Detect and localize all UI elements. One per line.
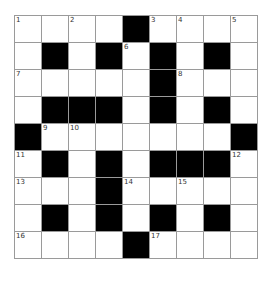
crossword-cell[interactable] <box>69 178 96 205</box>
black-square <box>96 151 123 178</box>
crossword-cell[interactable]: 16 <box>15 232 42 259</box>
black-square <box>15 124 42 151</box>
crossword-cell[interactable]: 6 <box>123 43 150 70</box>
clue-number: 12 <box>232 151 241 159</box>
crossword-cell[interactable] <box>96 232 123 259</box>
clue-number: 3 <box>151 16 155 24</box>
black-square <box>204 205 231 232</box>
crossword-cell[interactable] <box>231 97 258 124</box>
clue-number: 13 <box>16 178 25 186</box>
crossword-cell[interactable] <box>123 70 150 97</box>
black-square <box>96 178 123 205</box>
black-square <box>204 151 231 178</box>
crossword-cell[interactable]: 2 <box>69 16 96 43</box>
crossword-cell[interactable]: 15 <box>177 178 204 205</box>
black-square <box>96 205 123 232</box>
clue-number: 5 <box>232 16 236 24</box>
clue-number: 15 <box>178 178 187 186</box>
crossword-cell[interactable]: 9 <box>42 124 69 151</box>
crossword-cell[interactable] <box>150 124 177 151</box>
crossword-cell[interactable] <box>204 178 231 205</box>
crossword-cell[interactable] <box>177 43 204 70</box>
black-square <box>204 43 231 70</box>
black-square <box>150 97 177 124</box>
crossword-grid: 1234567891011121314151617 <box>14 15 258 259</box>
crossword-cell[interactable]: 8 <box>177 70 204 97</box>
crossword-cell[interactable]: 13 <box>15 178 42 205</box>
crossword-cell[interactable] <box>177 97 204 124</box>
crossword-cell[interactable] <box>96 124 123 151</box>
clue-number: 10 <box>70 124 79 132</box>
clue-number: 14 <box>124 178 133 186</box>
crossword-cell[interactable] <box>204 232 231 259</box>
black-square <box>42 43 69 70</box>
crossword-cell[interactable] <box>231 232 258 259</box>
crossword-cell[interactable] <box>177 124 204 151</box>
crossword-cell[interactable] <box>69 205 96 232</box>
crossword-cell[interactable] <box>69 232 96 259</box>
black-square <box>204 97 231 124</box>
crossword-cell[interactable]: 5 <box>231 16 258 43</box>
crossword-cell[interactable] <box>204 16 231 43</box>
crossword-cell[interactable]: 12 <box>231 151 258 178</box>
crossword-cell[interactable] <box>177 205 204 232</box>
crossword-cell[interactable] <box>204 124 231 151</box>
crossword-cell[interactable]: 11 <box>15 151 42 178</box>
crossword-cell[interactable] <box>123 205 150 232</box>
crossword-cell[interactable] <box>42 70 69 97</box>
crossword-cell[interactable] <box>123 151 150 178</box>
crossword-cell[interactable] <box>231 205 258 232</box>
black-square <box>231 124 258 151</box>
black-square <box>150 205 177 232</box>
black-square <box>150 43 177 70</box>
crossword-cell[interactable]: 17 <box>150 232 177 259</box>
clue-number: 1 <box>16 16 20 24</box>
clue-number: 4 <box>178 16 182 24</box>
crossword-cell[interactable] <box>96 70 123 97</box>
crossword-cell[interactable] <box>42 232 69 259</box>
black-square <box>123 232 150 259</box>
black-square <box>123 16 150 43</box>
black-square <box>96 97 123 124</box>
clue-number: 6 <box>124 43 128 51</box>
clue-number: 17 <box>151 232 160 240</box>
crossword-cell[interactable] <box>231 70 258 97</box>
crossword-cell[interactable] <box>15 97 42 124</box>
clue-number: 2 <box>70 16 74 24</box>
crossword-cell[interactable]: 1 <box>15 16 42 43</box>
crossword-cell[interactable] <box>42 16 69 43</box>
black-square <box>96 43 123 70</box>
crossword-cell[interactable] <box>231 178 258 205</box>
black-square <box>42 97 69 124</box>
crossword-cell[interactable] <box>150 178 177 205</box>
crossword-cell[interactable] <box>42 178 69 205</box>
clue-number: 11 <box>16 151 25 159</box>
crossword-cell[interactable]: 7 <box>15 70 42 97</box>
black-square <box>150 151 177 178</box>
crossword-cell[interactable] <box>69 151 96 178</box>
crossword-cell[interactable] <box>123 124 150 151</box>
crossword-cell[interactable] <box>69 43 96 70</box>
crossword-cell[interactable] <box>96 16 123 43</box>
clue-number: 9 <box>43 124 47 132</box>
black-square <box>177 151 204 178</box>
crossword-cell[interactable] <box>123 97 150 124</box>
clue-number: 8 <box>178 70 182 78</box>
crossword-cell[interactable]: 10 <box>69 124 96 151</box>
crossword-cell[interactable] <box>69 70 96 97</box>
crossword-cell[interactable]: 3 <box>150 16 177 43</box>
clue-number: 16 <box>16 232 25 240</box>
crossword-cell[interactable]: 14 <box>123 178 150 205</box>
crossword-cell[interactable] <box>15 205 42 232</box>
crossword-cell[interactable] <box>15 43 42 70</box>
black-square <box>42 205 69 232</box>
black-square <box>42 151 69 178</box>
crossword-cell[interactable] <box>177 232 204 259</box>
black-square <box>69 97 96 124</box>
crossword-cell[interactable] <box>204 70 231 97</box>
crossword-cell[interactable] <box>231 43 258 70</box>
crossword-cell[interactable]: 4 <box>177 16 204 43</box>
black-square <box>150 70 177 97</box>
clue-number: 7 <box>16 70 20 78</box>
